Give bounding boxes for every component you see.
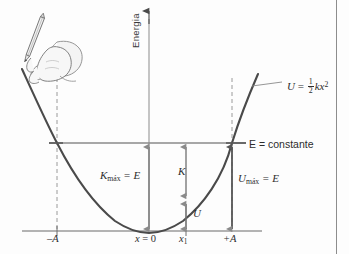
- potential-max-subscript: máx: [246, 177, 259, 186]
- energy-diagram-figure: Energia U = 12kx2 E = constante Kmáx = E…: [0, 0, 349, 254]
- y-axis-title: Energia: [130, 13, 141, 48]
- potential-max-label: Umáx = E: [238, 173, 279, 186]
- formula-equals: =: [295, 80, 307, 92]
- potential-max-value: = E: [259, 172, 279, 184]
- page-right-border: [336, 0, 337, 254]
- kinetic-max-label: Kmáx = E: [100, 170, 140, 183]
- kinetic-max-subscript: máx: [107, 174, 120, 183]
- formula-rhs: kx: [315, 80, 325, 92]
- pencil-icon: [25, 13, 45, 62]
- formula-lhs: U: [287, 80, 295, 92]
- x-one-subscript: 1: [184, 237, 188, 246]
- formula-fraction: 12: [308, 78, 314, 95]
- x-tick-label-plus-a: +A: [223, 234, 237, 245]
- formula-leader-line: [252, 82, 282, 86]
- energy-level-label: E = constante: [249, 139, 314, 150]
- formula-numerator: 1: [308, 78, 314, 86]
- origin-equals-zero: = 0: [140, 233, 156, 244]
- formula-denominator: 2: [308, 86, 314, 95]
- kinetic-energy-label: K: [178, 166, 185, 177]
- potential-energy-label: U: [193, 208, 201, 219]
- diagram-canvas: [0, 0, 349, 254]
- x-tick-label-origin: x = 0: [135, 234, 156, 245]
- hand-with-pencil-illustration: [25, 13, 83, 83]
- formula-exponent: 2: [324, 80, 328, 89]
- x-tick-label-minus-a: –A: [47, 234, 59, 245]
- curve-formula-label: U = 12kx2: [287, 78, 328, 95]
- potential-max-symbol: U: [238, 172, 246, 184]
- x-tick-label-x-one: x1: [179, 234, 187, 245]
- kinetic-max-value: = E: [121, 169, 141, 181]
